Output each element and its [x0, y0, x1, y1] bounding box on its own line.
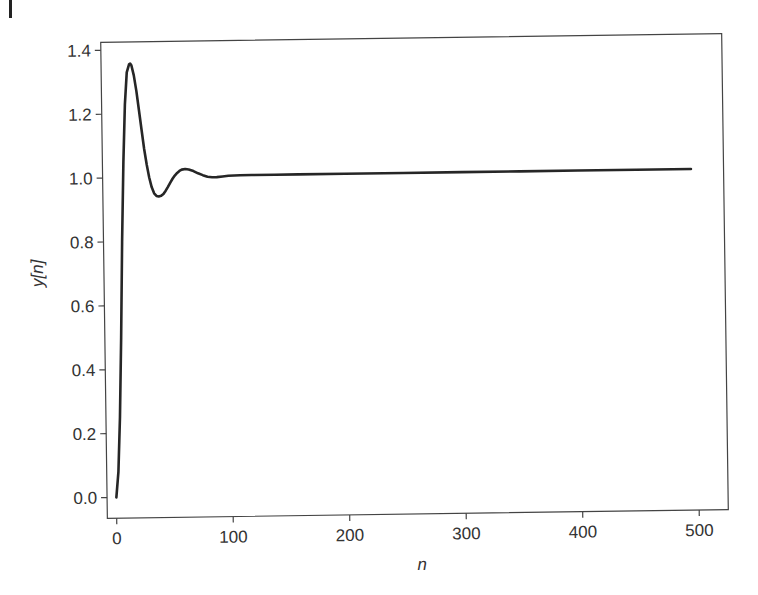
- y-tick-label: 0.2: [72, 425, 96, 444]
- x-tick-label: 500: [685, 521, 714, 540]
- x-tick-label: 200: [336, 526, 365, 545]
- series-line-y-n: [110, 56, 695, 498]
- y-tick-label: 1.2: [68, 105, 92, 124]
- y-tick-label: 1.0: [69, 169, 93, 188]
- x-tick-label: 400: [569, 522, 598, 541]
- x-tick-label: 100: [219, 527, 248, 546]
- x-axis-label: n: [417, 555, 427, 574]
- plot-area: 0.00.20.40.60.81.01.21.4 010020030040050…: [25, 33, 729, 580]
- x-tick-label: 300: [452, 524, 481, 543]
- y-axis-label: y[n]: [28, 258, 47, 288]
- y-tick-label: 0.8: [70, 233, 94, 252]
- y-tick-label: 0.4: [72, 361, 96, 380]
- y-tick-label: 0.0: [73, 489, 97, 508]
- x-tick-label: 0: [112, 529, 122, 548]
- line-chart: 0.00.20.40.60.81.01.21.4 010020030040050…: [0, 0, 758, 595]
- y-tick-label: 1.4: [67, 41, 91, 60]
- y-tick-label: 0.6: [71, 297, 95, 316]
- x-axis-ticks: 0100200300400500: [112, 510, 714, 548]
- axes-frame: [101, 34, 729, 519]
